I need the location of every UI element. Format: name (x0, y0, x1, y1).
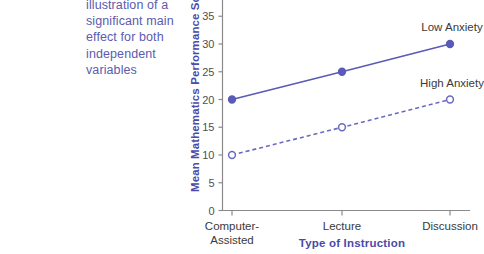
caption-line-5: variables (86, 62, 182, 78)
y-tick-group: 05101520253035 (202, 10, 222, 216)
y-tick-label: 15 (202, 121, 214, 133)
caption-line-4: independent (86, 46, 182, 62)
y-tick-label: 0 (208, 205, 214, 217)
category-label: Lecture (323, 220, 361, 232)
chart-page: illustration of a significant main effec… (0, 0, 484, 254)
caption-line-3: effect for both (86, 29, 182, 45)
series-label: Low Anxiety (421, 21, 483, 33)
y-tick-label: 5 (208, 177, 214, 189)
data-point-filled-circle (447, 41, 454, 48)
data-point-filled-circle (229, 96, 236, 103)
series-label-group: Low AnxietyHigh Anxiety (420, 21, 484, 89)
line-chart: Mean Mathematics Performance Score Type … (176, 0, 484, 254)
y-tick-label: 30 (202, 38, 214, 50)
series-group (229, 41, 454, 159)
category-label: Computer- (205, 220, 259, 232)
caption-line-1: illustration of a (86, 0, 182, 13)
category-label: Assisted (210, 234, 253, 246)
category-label-group: Computer-AssistedLectureDiscussion (205, 220, 478, 246)
y-tick-label: 10 (202, 149, 214, 161)
caption-text-block: illustration of a significant main effec… (86, 0, 182, 78)
data-point-open-circle (229, 152, 236, 159)
data-point-open-circle (447, 96, 454, 103)
y-tick-label: 20 (202, 94, 214, 106)
series-label: High Anxiety (420, 77, 484, 89)
y-tick-label: 25 (202, 66, 214, 78)
caption-line-2: significant main (86, 13, 182, 29)
plot-area: 05101520253035 Computer-AssistedLectureD… (176, 0, 484, 254)
y-tick-label: 35 (202, 10, 214, 22)
category-label: Discussion (422, 220, 478, 232)
x-tick-group (232, 211, 450, 216)
data-point-open-circle (339, 124, 346, 131)
data-point-filled-circle (339, 68, 346, 75)
